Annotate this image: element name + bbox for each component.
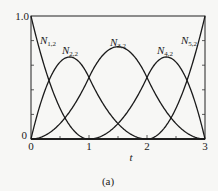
curve-n5-2 [31,16,205,139]
y-tick-label-top: 1.0 [15,10,29,22]
x-axis-label: t [129,151,133,163]
label-n2-2: N2,2 [61,44,79,58]
bspline-basis-chart: 1.0 0 0 1 2 3 t N1,2 N2,2 N3,2 N4,2 N5,2… [0,0,218,191]
label-n5-2: N5,2 [180,34,198,48]
label-n1-2: N1,2 [39,34,57,48]
x-tick-label-3: 3 [202,140,208,152]
plot-frame [31,16,205,139]
y-tick-label-zero: 0 [22,129,28,141]
curves [31,16,205,139]
curve-n3-2 [31,47,205,139]
x-tick-label-1: 1 [86,140,92,152]
label-n3-2: N3,2 [109,36,127,50]
curve-n1-2 [31,16,205,139]
x-tick-label-2: 2 [144,140,150,152]
figure-caption: (a) [102,175,115,188]
label-n4-2: N4,2 [156,44,174,58]
x-tick-label-0: 0 [28,140,34,152]
